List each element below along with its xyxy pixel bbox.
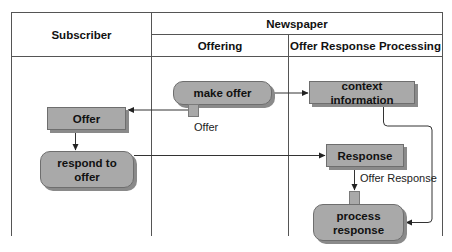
object-offer-label: Offer bbox=[73, 112, 100, 126]
object-context-information-label: context information bbox=[310, 79, 414, 107]
pin-offer-response-label: Offer Response bbox=[360, 172, 437, 184]
lane-header-offer-response-processing: Offer Response Processing bbox=[289, 35, 442, 56]
object-context-information[interactable]: context information bbox=[309, 81, 415, 104]
action-make-offer[interactable]: make offer bbox=[173, 81, 272, 105]
pin-offer-output[interactable] bbox=[188, 104, 199, 117]
object-response-label: Response bbox=[338, 149, 393, 163]
lane-header-subscriber: Subscriber bbox=[12, 13, 151, 56]
lane-header-offering: Offering bbox=[152, 35, 288, 56]
action-respond-to-offer-label-1: respond to bbox=[57, 156, 116, 170]
pin-offer-label: Offer bbox=[194, 121, 218, 133]
action-make-offer-label: make offer bbox=[193, 86, 251, 100]
action-respond-to-offer-label-2: offer bbox=[74, 170, 100, 184]
pin-offer-response-input[interactable] bbox=[349, 191, 360, 205]
object-response[interactable]: Response bbox=[326, 144, 404, 167]
action-respond-to-offer[interactable]: respond to offer bbox=[40, 151, 134, 188]
lane-header-newspaper: Newspaper bbox=[152, 13, 442, 34]
activity-diagram: Subscriber Newspaper Offering Offer Resp… bbox=[0, 0, 452, 252]
action-process-response-label-1: process bbox=[336, 209, 380, 223]
object-offer[interactable]: Offer bbox=[47, 107, 126, 130]
action-process-response[interactable]: process response bbox=[313, 204, 404, 241]
action-process-response-label-2: response bbox=[333, 223, 384, 237]
